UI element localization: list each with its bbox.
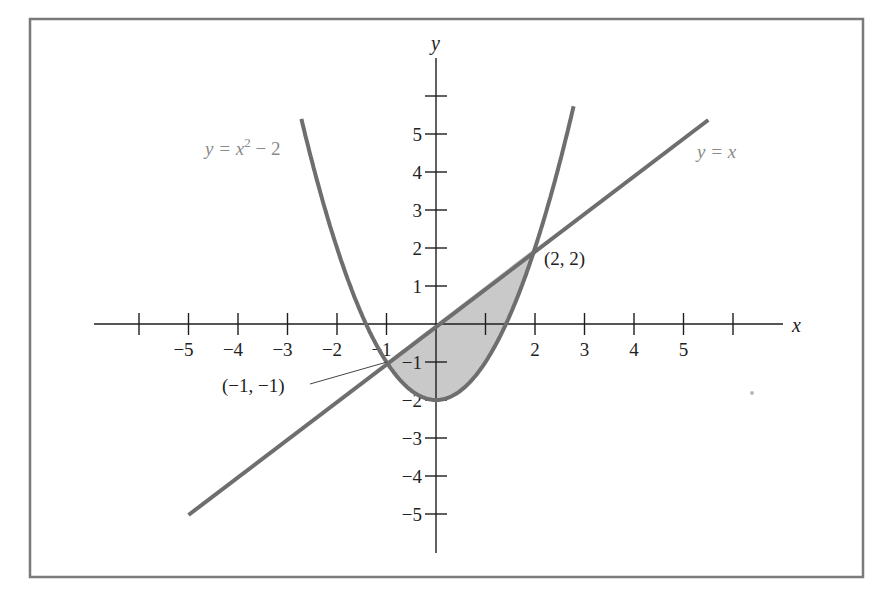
scan-speck <box>750 391 754 395</box>
y-axis-label: y <box>429 32 440 55</box>
y-tick-label: 1 <box>413 276 423 297</box>
point-a-label: (−1, −1) <box>222 375 285 397</box>
line-equation-label: y = x <box>695 141 737 162</box>
x-tick-label: −5 <box>173 339 193 360</box>
y-tick-label: −4 <box>402 466 423 487</box>
point-b-label: (2, 2) <box>544 248 585 270</box>
x-tick-label: 2 <box>530 339 540 360</box>
line-y-equals-x <box>189 120 709 515</box>
x-tick-label: −4 <box>223 339 244 360</box>
figure-frame <box>30 19 863 577</box>
y-tick-label: 5 <box>413 124 423 145</box>
x-axis-label: x <box>791 314 801 336</box>
parabola-eq-prefix: y = x <box>203 138 245 159</box>
y-tick-label: −5 <box>402 504 422 525</box>
x-tick-label: −2 <box>322 339 342 360</box>
y-tick-label: 3 <box>413 200 423 221</box>
parabola-eq-suffix: − 2 <box>251 138 281 159</box>
y-tick-label: −3 <box>402 428 422 449</box>
y-tick-label: 2 <box>413 238 423 259</box>
parabola-equation-label: y = x2 − 2 <box>203 135 280 159</box>
y-tick-label: 4 <box>413 162 423 183</box>
y-axis-ticks: 54321−1−2−3−4−5 <box>402 96 447 525</box>
x-tick-label: 4 <box>629 339 639 360</box>
x-tick-label: 5 <box>679 339 689 360</box>
x-tick-label: 3 <box>580 339 590 360</box>
graph-figure: −5−4−3−2−12345 54321−1−2−3−4−5 y x y = x… <box>0 0 874 595</box>
y-tick-label: −1 <box>402 352 422 373</box>
x-tick-label: −3 <box>272 339 292 360</box>
